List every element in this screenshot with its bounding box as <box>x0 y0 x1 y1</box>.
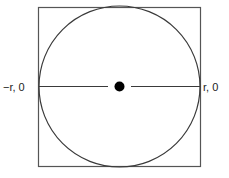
label-neg-r: −r, 0 <box>3 81 25 93</box>
circle-in-square-diagram: −r, 0 r, 0 <box>0 0 229 178</box>
label-pos-r: r, 0 <box>203 81 218 93</box>
center-point <box>115 82 125 92</box>
